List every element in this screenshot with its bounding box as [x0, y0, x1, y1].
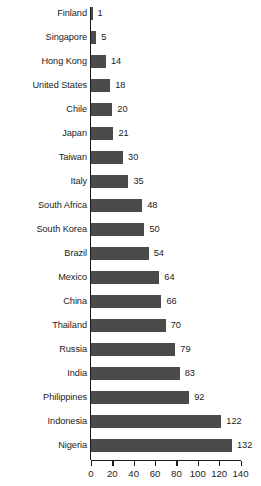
- x-tick: [155, 461, 156, 466]
- bar-row: Hong Kong14: [0, 55, 261, 79]
- category-label: Japan: [0, 127, 87, 140]
- category-label: Philippines: [0, 391, 87, 404]
- category-label: Taiwan: [0, 151, 87, 164]
- x-tick: [176, 461, 177, 466]
- value-label: 35: [133, 175, 143, 188]
- bar-track: [91, 439, 232, 452]
- bar-row: Taiwan30: [0, 151, 261, 175]
- value-label: 132: [237, 439, 252, 452]
- bar: [91, 247, 149, 260]
- x-tick: [91, 461, 92, 466]
- value-label: 83: [185, 367, 195, 380]
- bar-track: [91, 151, 123, 164]
- category-label: Russia: [0, 343, 87, 356]
- value-label: 64: [164, 271, 174, 284]
- x-tick-label: 140: [232, 468, 248, 480]
- category-label: South Korea: [0, 223, 87, 236]
- x-tick: [241, 461, 242, 466]
- x-tick: [198, 461, 199, 466]
- bar-track: [91, 391, 189, 404]
- category-label: United States: [0, 79, 87, 92]
- bar-row: China66: [0, 295, 261, 319]
- bar-row: Philippines92: [0, 391, 261, 415]
- x-tick-label: 40: [128, 468, 139, 480]
- value-label: 122: [226, 415, 241, 428]
- x-tick-label: 20: [107, 468, 118, 480]
- bar: [91, 175, 128, 188]
- bar-row: Singapore5: [0, 31, 261, 55]
- bar-chart: Finland1Singapore5Hong Kong14United Stat…: [0, 0, 261, 486]
- bar: [91, 319, 166, 332]
- bar-track: [91, 415, 221, 428]
- bar-track: [91, 79, 110, 92]
- category-label: China: [0, 295, 87, 308]
- bar-track: [91, 175, 128, 188]
- bar: [91, 55, 106, 68]
- bar-track: [91, 343, 175, 356]
- value-label: 14: [111, 55, 121, 68]
- value-label: 18: [115, 79, 125, 92]
- value-label: 66: [166, 295, 176, 308]
- value-label: 92: [194, 391, 204, 404]
- bar-row: South Africa48: [0, 199, 261, 223]
- value-label: 50: [149, 223, 159, 236]
- value-label: 20: [117, 103, 127, 116]
- x-tick-label: 60: [150, 468, 161, 480]
- bar-rows: Finland1Singapore5Hong Kong14United Stat…: [0, 7, 261, 463]
- category-label: Chile: [0, 103, 87, 116]
- value-label: 30: [128, 151, 138, 164]
- value-label: 79: [180, 343, 190, 356]
- category-label: Hong Kong: [0, 55, 87, 68]
- category-label: Italy: [0, 175, 87, 188]
- bar-track: [91, 271, 159, 284]
- x-tick: [219, 461, 220, 466]
- bar: [91, 391, 189, 404]
- value-label: 70: [171, 319, 181, 332]
- bar: [91, 271, 159, 284]
- value-label: 5: [101, 31, 106, 44]
- bar: [91, 151, 123, 164]
- x-tick-label: 0: [88, 468, 93, 480]
- bar-track: [91, 103, 112, 116]
- bar-row: Finland1: [0, 7, 261, 31]
- bar-track: [91, 319, 166, 332]
- bar-track: [91, 7, 93, 20]
- value-label: 1: [98, 7, 103, 20]
- category-label: Finland: [0, 7, 87, 20]
- bar-row: South Korea50: [0, 223, 261, 247]
- bar-track: [91, 199, 142, 212]
- value-label: 48: [147, 199, 157, 212]
- bar: [91, 415, 221, 428]
- category-label: South Africa: [0, 199, 87, 212]
- bar-row: United States18: [0, 79, 261, 103]
- category-label: Mexico: [0, 271, 87, 284]
- x-tick-label: 100: [190, 468, 206, 480]
- bar: [91, 295, 161, 308]
- bar: [91, 7, 93, 20]
- bar: [91, 223, 144, 236]
- category-label: India: [0, 367, 87, 380]
- bar-row: India83: [0, 367, 261, 391]
- x-tick-label: 120: [211, 468, 227, 480]
- bar: [91, 103, 112, 116]
- bar-track: [91, 247, 149, 260]
- bar: [91, 439, 232, 452]
- x-tick: [134, 461, 135, 466]
- bar-track: [91, 31, 96, 44]
- bar-track: [91, 223, 144, 236]
- x-tick-label: 80: [171, 468, 182, 480]
- bar-track: [91, 55, 106, 68]
- bar-track: [91, 295, 161, 308]
- bar-row: Indonesia122: [0, 415, 261, 439]
- value-label: 54: [154, 247, 164, 260]
- bar: [91, 199, 142, 212]
- bar-row: Thailand70: [0, 319, 261, 343]
- category-label: Thailand: [0, 319, 87, 332]
- value-label: 21: [118, 127, 128, 140]
- bar-row: Japan21: [0, 127, 261, 151]
- bar: [91, 31, 96, 44]
- category-label: Nigeria: [0, 439, 87, 452]
- x-tick: [112, 461, 113, 466]
- bar: [91, 127, 113, 140]
- category-label: Indonesia: [0, 415, 87, 428]
